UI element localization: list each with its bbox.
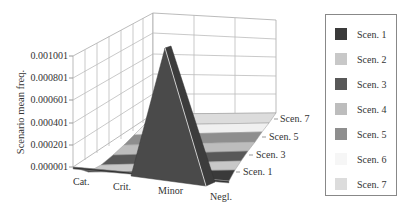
y-tick: 0.000001 bbox=[31, 161, 69, 172]
legend-swatch bbox=[335, 128, 347, 140]
legend-label: Scen. 6 bbox=[357, 154, 386, 165]
x-category: Crit. bbox=[113, 181, 131, 192]
legend-swatch bbox=[335, 53, 347, 65]
legend-label: Scen. 4 bbox=[357, 104, 386, 115]
legend-item: Scen. 1 bbox=[335, 27, 386, 41]
y-axis-label: Scenario mean freq. bbox=[15, 70, 26, 154]
legend-swatch bbox=[335, 78, 347, 90]
legend-swatch bbox=[335, 103, 347, 115]
y-axis: 0.000001 0.000201 0.000401 0.000601 0.00… bbox=[15, 50, 73, 172]
depth-label: Scen. 3 bbox=[256, 149, 285, 160]
legend-label: Scen. 5 bbox=[357, 129, 386, 140]
x-category: Negl. bbox=[210, 191, 232, 202]
legend-label: Scen. 3 bbox=[357, 79, 386, 90]
y-tick: 0.000801 bbox=[31, 72, 69, 83]
legend-item: Scen. 3 bbox=[335, 77, 386, 91]
legend-swatch bbox=[335, 178, 347, 190]
y-tick: 0.000401 bbox=[31, 117, 69, 128]
legend-label: Scen. 2 bbox=[357, 54, 386, 65]
y-tick: 0.001001 bbox=[31, 50, 69, 61]
legend-item: Scen. 4 bbox=[335, 102, 386, 116]
legend-swatch bbox=[335, 28, 347, 40]
legend-item: Scen. 6 bbox=[335, 152, 386, 166]
legend-item: Scen. 2 bbox=[335, 52, 386, 66]
x-category: Cat. bbox=[73, 176, 89, 187]
x-category: Minor bbox=[158, 185, 184, 196]
depth-label: Scen. 5 bbox=[269, 131, 298, 142]
y-tick: 0.000601 bbox=[31, 94, 69, 105]
legend-item: Scen. 7 bbox=[335, 177, 386, 191]
depth-label: Scen. 7 bbox=[280, 113, 309, 124]
legend: Scen. 1 Scen. 2 Scen. 3 Scen. 4 Scen. 5 … bbox=[325, 14, 397, 196]
depth-label: Scen. 1 bbox=[243, 166, 272, 177]
y-tick: 0.000201 bbox=[31, 139, 69, 150]
legend-label: Scen. 7 bbox=[357, 179, 386, 190]
legend-item: Scen. 5 bbox=[335, 127, 386, 141]
legend-label: Scen. 1 bbox=[357, 29, 386, 40]
legend-swatch bbox=[335, 153, 347, 165]
